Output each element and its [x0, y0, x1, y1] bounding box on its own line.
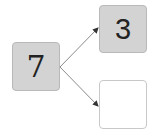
root-number-box: 7 [12, 42, 60, 91]
child-number-box-1: 3 [99, 5, 147, 53]
child-number-box-2[interactable] [99, 80, 147, 129]
child-number-1: 3 [115, 13, 131, 46]
root-number: 7 [26, 49, 45, 84]
arrow-to-child-2 [60, 67, 98, 106]
arrow-to-child-1 [60, 28, 98, 67]
